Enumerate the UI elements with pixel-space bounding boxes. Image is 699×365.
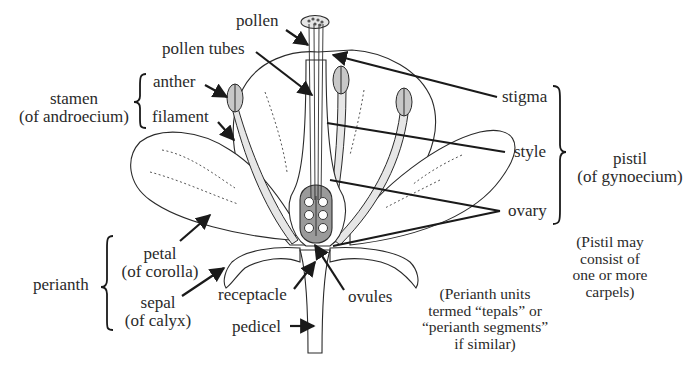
sepal-left	[224, 248, 300, 288]
label-receptacle: receptacle	[218, 286, 287, 304]
label-pistil-sub: (of gynoecium)	[565, 168, 695, 186]
label-stigma: stigma	[502, 88, 547, 106]
label-filament: filament	[152, 108, 209, 126]
label-sepal-title: sepal	[113, 294, 203, 312]
label-pistil-title: pistil	[565, 150, 695, 168]
label-stamen: stamen (of androecium)	[14, 90, 134, 126]
sepal-right	[330, 248, 418, 288]
label-petal-title: petal	[110, 245, 210, 263]
label-pollen-tubes: pollen tubes	[162, 40, 245, 58]
label-ovary: ovary	[508, 202, 547, 220]
label-petal: petal (of corolla)	[110, 245, 210, 281]
label-sepal: sepal (of calyx)	[113, 294, 203, 330]
pistil-note: (Pistil may consist of one or more carpe…	[560, 234, 660, 300]
perianth-note: (Perianth units termed “tepals” or “peri…	[410, 286, 560, 352]
flower-diagram: pollen pollen tubes anther filament stam…	[0, 0, 699, 365]
label-perianth: perianth	[33, 276, 89, 294]
label-style: style	[514, 143, 546, 161]
brace-stamen	[134, 74, 146, 128]
label-pistil: pistil (of gynoecium)	[565, 150, 695, 186]
label-sepal-sub: (of calyx)	[113, 312, 203, 330]
label-petal-sub: (of corolla)	[110, 263, 210, 281]
label-anther: anther	[153, 73, 195, 91]
label-ovules: ovules	[348, 288, 392, 306]
label-stamen-title: stamen	[14, 90, 134, 108]
pedicel-shape	[300, 250, 330, 353]
label-pedicel: pedicel	[232, 318, 281, 336]
label-stamen-sub: (of androecium)	[14, 108, 134, 126]
stigma	[301, 16, 329, 29]
label-pollen: pollen	[236, 12, 279, 30]
ovules-group	[305, 196, 328, 236]
